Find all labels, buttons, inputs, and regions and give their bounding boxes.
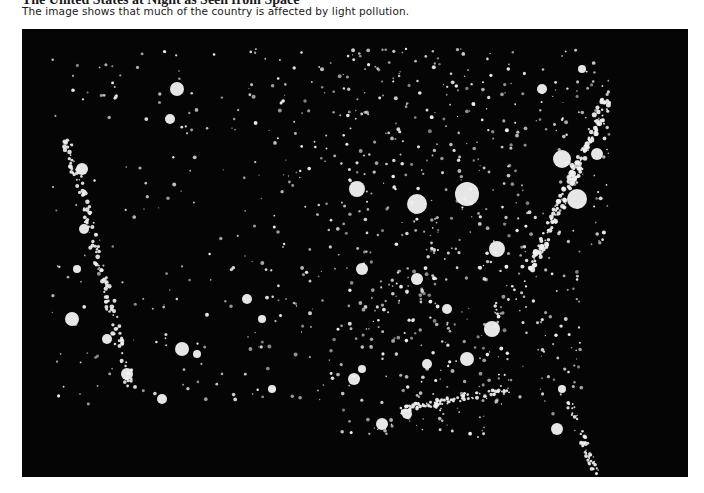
light-spot	[478, 266, 482, 270]
light-spot	[296, 172, 298, 174]
light-spot	[247, 336, 248, 337]
light-spot	[391, 175, 394, 178]
light-spot	[374, 427, 375, 428]
light-spot	[466, 393, 469, 396]
light-spot	[277, 284, 280, 287]
light-spot	[460, 179, 462, 181]
light-spot	[195, 108, 199, 112]
light-spot	[348, 385, 350, 387]
light-spot	[407, 416, 411, 420]
light-spot	[437, 57, 439, 59]
light-spot	[493, 240, 495, 242]
light-spot	[300, 51, 303, 54]
light-spot	[373, 321, 374, 322]
light-spot	[87, 92, 89, 94]
light-spot	[572, 230, 574, 232]
light-spot	[382, 94, 384, 96]
light-spot	[337, 328, 340, 331]
light-spot	[607, 80, 609, 82]
light-spot	[370, 260, 373, 263]
light-spot	[73, 265, 81, 273]
light-spot	[62, 144, 67, 149]
light-spot	[556, 130, 558, 132]
light-spot	[457, 116, 458, 117]
light-spot	[237, 235, 239, 237]
light-spot	[432, 155, 434, 157]
light-spot	[261, 198, 262, 199]
light-spot	[413, 220, 415, 222]
light-spot	[434, 62, 436, 64]
light-spot	[503, 222, 506, 225]
light-spot	[224, 300, 226, 302]
light-spot	[608, 133, 611, 136]
light-spot	[127, 372, 131, 376]
light-spot	[368, 153, 371, 156]
light-spot	[477, 158, 479, 160]
light-spot	[583, 156, 588, 161]
light-spot	[452, 149, 455, 152]
light-spot	[385, 375, 387, 377]
light-spot	[588, 128, 590, 130]
light-spot	[451, 430, 454, 433]
light-spot	[459, 400, 461, 402]
light-spot	[359, 301, 363, 305]
light-spot	[449, 330, 452, 333]
light-spot	[522, 189, 524, 191]
light-spot	[515, 229, 518, 232]
light-spot	[540, 91, 544, 95]
light-spot	[498, 377, 500, 379]
light-spot	[508, 63, 510, 65]
light-spot	[388, 61, 391, 64]
light-spot	[603, 123, 605, 125]
light-spot	[307, 109, 310, 112]
light-spot	[402, 140, 404, 142]
light-spot	[445, 342, 446, 343]
light-spot	[595, 473, 597, 475]
light-spot	[330, 62, 332, 64]
light-spot	[523, 245, 526, 248]
light-spot	[457, 169, 461, 173]
light-spot	[497, 389, 501, 393]
light-spot	[407, 285, 409, 287]
light-spot	[409, 408, 411, 410]
light-spot	[420, 298, 422, 300]
light-spot	[221, 373, 224, 376]
light-spot	[414, 332, 416, 334]
light-spot	[200, 363, 202, 365]
light-spot	[366, 191, 368, 193]
light-spot	[409, 421, 410, 422]
light-spot	[276, 230, 280, 234]
light-spot	[60, 353, 62, 355]
light-spot	[583, 435, 587, 439]
light-spot	[423, 231, 425, 233]
light-spot	[188, 279, 191, 282]
light-spot	[381, 330, 384, 333]
light-spot	[501, 403, 502, 404]
light-spot	[99, 239, 100, 240]
light-spot	[332, 338, 336, 342]
light-spot	[590, 467, 594, 471]
light-spot	[301, 331, 302, 332]
light-spot	[133, 339, 134, 340]
light-spot	[242, 294, 252, 304]
light-spot	[345, 143, 348, 146]
light-spot	[588, 136, 591, 139]
light-spot	[88, 246, 92, 250]
light-spot	[116, 316, 118, 318]
light-spot	[85, 207, 90, 212]
light-spot	[447, 327, 450, 330]
light-spot	[498, 356, 500, 358]
light-spot	[544, 239, 546, 241]
light-spot	[548, 257, 550, 259]
light-spot	[576, 358, 577, 359]
light-spot	[254, 121, 258, 125]
light-spot	[350, 327, 353, 330]
light-spot	[441, 171, 444, 174]
light-spot	[197, 381, 200, 384]
light-spot	[407, 194, 427, 214]
light-spot	[77, 166, 80, 169]
light-spot	[165, 114, 175, 124]
light-spot	[134, 303, 137, 306]
light-spot	[533, 267, 535, 269]
light-spot	[539, 109, 541, 111]
